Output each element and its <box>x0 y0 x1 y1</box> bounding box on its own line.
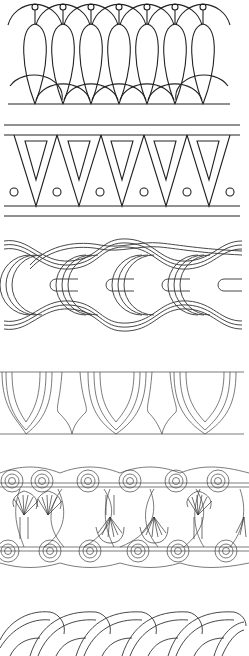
band-rope-braid <box>0 600 249 656</box>
band-scroll-palmette <box>0 455 249 575</box>
band-teardrop-loops <box>0 0 249 110</box>
band-triangles <box>0 110 249 220</box>
ornament-sheet <box>0 0 249 656</box>
band-pointed-arches <box>0 360 249 450</box>
band-interlace <box>0 225 249 345</box>
